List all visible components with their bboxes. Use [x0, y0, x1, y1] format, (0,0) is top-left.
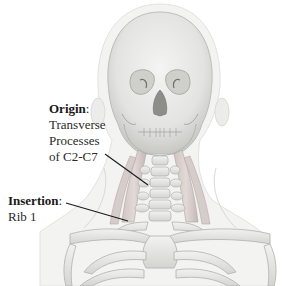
origin-line-3: of C2-C7	[49, 149, 106, 165]
origin-label: Origin: Transverse Processes of C2-C7	[49, 101, 106, 165]
origin-line-2: Processes	[49, 133, 106, 149]
insertion-title: Insertion	[8, 193, 59, 208]
origin-title-colon: :	[86, 101, 90, 116]
insertion-title-colon: :	[59, 193, 63, 208]
origin-line-1: Transverse	[49, 117, 106, 133]
origin-title: Origin	[49, 101, 86, 116]
insertion-label: Insertion: Rib 1	[8, 193, 62, 225]
skull	[108, 12, 212, 156]
anatomy-diagram: Origin: Transverse Processes of C2-C7 In…	[0, 0, 285, 286]
insertion-line-1: Rib 1	[8, 209, 62, 225]
skeleton-illustration	[0, 0, 285, 286]
